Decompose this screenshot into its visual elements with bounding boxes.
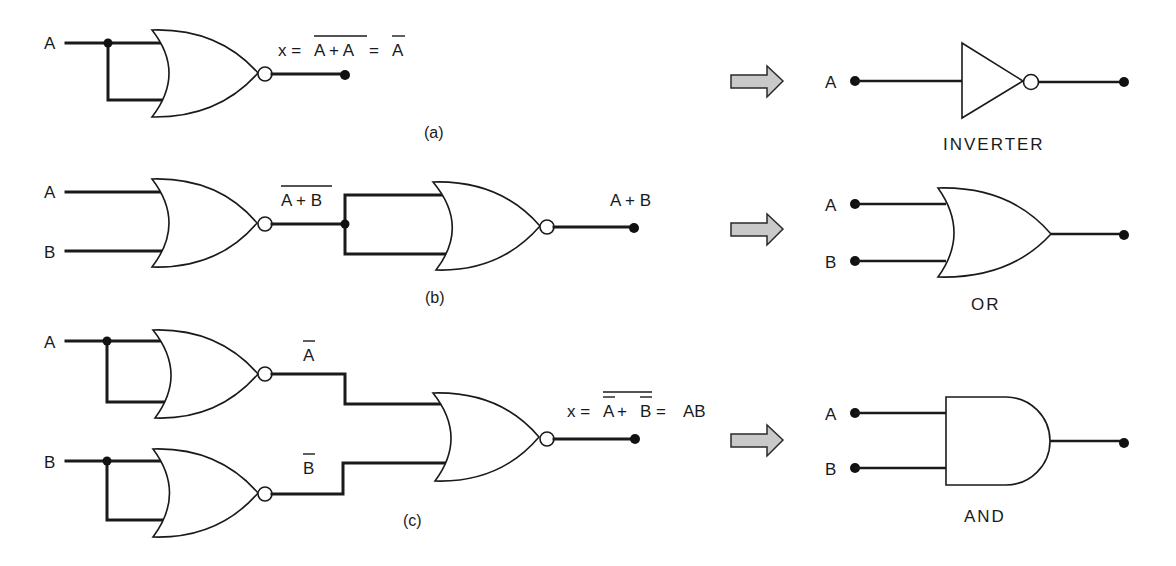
inversion-bubble	[258, 217, 272, 231]
inversion-bubble	[540, 432, 554, 446]
intermediate-label-a: A	[303, 346, 315, 365]
expression-c: x = A + B = AB	[567, 392, 706, 421]
input-label-a: A	[44, 333, 56, 352]
expr-prefix: x =	[567, 402, 590, 421]
nor-gate	[152, 30, 258, 117]
expr-overlined: A + A	[314, 41, 355, 60]
output-label: A + B	[610, 191, 651, 210]
expr-plus: +	[617, 402, 627, 421]
nor-gate-2	[433, 182, 540, 270]
junction-dot	[341, 220, 350, 229]
nor-gate-1	[152, 179, 257, 267]
right-arrow-icon	[731, 214, 783, 245]
expr-a: A	[603, 402, 615, 421]
right-arrow-icon	[731, 66, 783, 97]
input-label-a: A	[825, 196, 837, 215]
caption-c: (c)	[403, 512, 422, 529]
inversion-bubble	[258, 67, 272, 81]
input-label-b: B	[44, 243, 55, 262]
wire-b-bar	[272, 463, 450, 494]
gate-name-inverter: INVERTER	[943, 135, 1045, 154]
expression-a: x = A + A = A	[278, 36, 405, 60]
input-wires	[855, 413, 946, 468]
intermediate-label: A + B	[281, 191, 322, 210]
output-dot	[1119, 230, 1129, 240]
input-wires	[66, 43, 168, 100]
gate-name-or: OR	[971, 295, 1001, 314]
expr-result: AB	[683, 402, 706, 421]
input-label-a: A	[825, 73, 837, 92]
output-dot	[629, 223, 639, 233]
caption-b: (b)	[425, 289, 445, 306]
input-wires-b	[66, 461, 168, 520]
nor-gate-1	[153, 330, 258, 418]
and-gate	[946, 397, 1050, 485]
input-wires	[66, 192, 168, 251]
expr-b: B	[640, 402, 651, 421]
and-equivalent: A B AND	[825, 397, 1129, 526]
caption-a: (a)	[424, 124, 444, 141]
output-dot	[630, 434, 640, 444]
section-c: A B A B x = A + B = AB (c)	[44, 330, 1129, 537]
section-b: A B A + B A + B (b) A B OR	[44, 179, 1129, 314]
junction-dot	[104, 39, 113, 48]
or-equivalent: A B OR	[825, 188, 1129, 314]
right-arrow-icon	[731, 425, 783, 456]
intermediate-label-b: B	[303, 459, 314, 478]
expr-prefix: x =	[278, 41, 301, 60]
or-gate	[938, 188, 1051, 277]
nor-gate-2	[153, 449, 258, 537]
expr-equals: =	[369, 41, 379, 60]
junction-dot	[103, 457, 112, 466]
input-label-b: B	[44, 453, 55, 472]
section-a: A x = A + A = A (a) A INVERTER	[44, 30, 1129, 154]
wire-a-bar	[272, 374, 450, 404]
inverter-equivalent: A INVERTER	[825, 43, 1129, 154]
junction-dot	[103, 337, 112, 346]
nor-gate-equivalence-diagram: A x = A + A = A (a) A INVERTER	[0, 0, 1176, 566]
input-wires-a	[66, 341, 168, 402]
inversion-bubble	[1024, 75, 1039, 90]
expr-equals: =	[656, 402, 666, 421]
input-label-a: A	[825, 405, 837, 424]
inversion-bubble	[540, 220, 554, 234]
inversion-bubble	[258, 367, 272, 381]
input-label-b: B	[825, 253, 836, 272]
input-label-a: A	[44, 34, 56, 53]
output-dot	[340, 70, 350, 80]
inversion-bubble	[258, 487, 272, 501]
buffer-triangle	[962, 43, 1023, 118]
nor-gate-3	[433, 393, 539, 481]
gate-name-and: AND	[964, 507, 1006, 526]
output-dot	[1119, 77, 1129, 87]
input-label-a: A	[44, 183, 56, 202]
expr-result: A	[392, 41, 404, 60]
input-label-b: B	[825, 460, 836, 479]
output-dot	[1119, 438, 1129, 448]
input-wires	[855, 204, 946, 261]
